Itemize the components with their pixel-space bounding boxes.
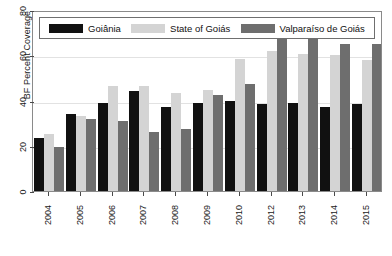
legend-item: Goiânia xyxy=(49,23,121,34)
bar xyxy=(235,59,245,191)
bar xyxy=(372,44,382,191)
y-axis-tick-mark xyxy=(30,192,34,193)
y-axis-tick-mark xyxy=(30,56,34,57)
y-axis-tick-mark xyxy=(30,102,34,103)
bar xyxy=(76,116,86,191)
x-axis-tick-mark xyxy=(302,192,303,196)
bar xyxy=(181,129,191,191)
bar xyxy=(129,91,139,191)
x-axis-tick-mark xyxy=(80,192,81,196)
chart-legend: GoiâniaState of GoiásValparaíso de Goiás xyxy=(39,17,375,39)
bar xyxy=(362,60,372,191)
x-axis-tick-mark xyxy=(334,192,335,196)
x-axis-tick-mark xyxy=(366,192,367,196)
y-axis-tick-label: 60 xyxy=(16,49,30,63)
y-axis-tick-label: 0 xyxy=(16,185,30,199)
bar xyxy=(340,44,350,191)
x-axis-tick-labels: 2004200520062007200820092010201220132014… xyxy=(32,192,382,252)
x-axis-tick-label: 2012 xyxy=(256,198,286,220)
bar-chart: BF Percent Coverage 020406080 GoiâniaSta… xyxy=(0,0,392,256)
bar xyxy=(108,86,118,191)
bar xyxy=(320,107,330,191)
x-axis-tick-mark xyxy=(112,192,113,196)
bar xyxy=(171,93,181,191)
legend-swatch xyxy=(241,24,275,33)
bar xyxy=(245,84,255,191)
bar xyxy=(352,104,362,191)
bar xyxy=(193,103,203,191)
legend-swatch xyxy=(49,24,83,33)
bar xyxy=(308,32,318,192)
x-axis-tick-mark xyxy=(48,192,49,196)
bar xyxy=(149,132,159,191)
x-axis-tick-label: 2006 xyxy=(97,198,127,220)
legend-label: State of Goiás xyxy=(170,23,230,34)
x-axis-tick-label: 2007 xyxy=(128,198,158,220)
x-axis-tick-label: 2004 xyxy=(33,198,63,220)
bar xyxy=(298,54,308,191)
x-axis-tick-label: 2008 xyxy=(160,198,190,220)
x-axis-tick-label: 2005 xyxy=(65,198,95,220)
bar xyxy=(66,114,76,191)
legend-label: Valparaíso de Goiás xyxy=(280,23,365,34)
y-axis-tick-label: 80 xyxy=(16,4,30,18)
y-axis-tick-label: 40 xyxy=(16,95,30,109)
bar xyxy=(161,107,171,191)
bar xyxy=(203,90,213,191)
bar xyxy=(257,104,267,191)
legend-item: State of Goiás xyxy=(131,23,230,34)
x-axis-tick-mark xyxy=(271,192,272,196)
bar xyxy=(34,138,44,191)
x-axis-tick-label: 2015 xyxy=(351,198,381,220)
x-axis-tick-mark xyxy=(143,192,144,196)
bar xyxy=(54,147,64,191)
y-axis-tick-mark xyxy=(30,11,34,12)
y-axis-tick-label: 20 xyxy=(16,140,30,154)
bar xyxy=(267,51,277,191)
legend-label: Goiânia xyxy=(88,23,121,34)
bar xyxy=(118,121,128,191)
x-axis-tick-label: 2014 xyxy=(319,198,349,220)
x-axis-tick-mark xyxy=(207,192,208,196)
bar xyxy=(288,103,298,191)
bar xyxy=(86,119,96,191)
bar xyxy=(44,134,54,191)
bar xyxy=(98,103,108,191)
x-axis-tick-mark xyxy=(175,192,176,196)
legend-item: Valparaíso de Goiás xyxy=(241,23,365,34)
bar xyxy=(139,86,149,191)
x-axis-tick-label: 2009 xyxy=(192,198,222,220)
bar xyxy=(277,34,287,191)
y-axis-tick-mark xyxy=(30,147,34,148)
x-axis-tick-label: 2010 xyxy=(224,198,254,220)
bar xyxy=(330,55,340,191)
x-axis-tick-mark xyxy=(239,192,240,196)
y-axis-tick-labels: 020406080 xyxy=(14,0,30,256)
bar xyxy=(213,95,223,191)
x-axis-tick-label: 2013 xyxy=(287,198,317,220)
bar xyxy=(225,101,235,192)
legend-swatch xyxy=(131,24,165,33)
